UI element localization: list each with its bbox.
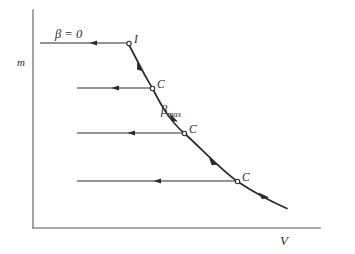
- beta-zero-path-arrowhead: [90, 40, 98, 45]
- ignition-point-label: I: [133, 33, 139, 45]
- contact-path-2-arrowhead: [128, 130, 136, 135]
- contact-point-1-label: C: [157, 78, 165, 90]
- boundary-curve-group: [128, 43, 287, 209]
- beta-max-label: βmax: [160, 103, 182, 119]
- contact-path-1-arrowhead: [112, 85, 120, 90]
- point-markers-group: [127, 41, 240, 183]
- contact-path-3: [77, 178, 237, 183]
- curve-arrowhead-1: [137, 62, 143, 72]
- contact-path-1: [77, 85, 152, 90]
- contact-point-2-marker: [182, 131, 186, 135]
- contact-path-2: [77, 130, 184, 135]
- diagram-figure: m V: [0, 0, 355, 254]
- y-axis-label: m: [17, 56, 25, 68]
- contact-point-3-marker: [235, 179, 239, 183]
- beta-max-subscript: max: [167, 109, 181, 119]
- contact-point-1-marker: [150, 86, 154, 90]
- beta-zero-path: [40, 40, 128, 45]
- diagram-canvas: m V: [0, 0, 355, 254]
- contact-path-3-arrowhead: [154, 178, 162, 183]
- svg-text:βmax: βmax: [160, 103, 182, 119]
- contact-point-2-label: C: [189, 123, 197, 135]
- curve-arrowhead-3: [209, 158, 218, 165]
- contact-point-3-label: C: [242, 171, 250, 183]
- beta-zero-label: β = 0: [54, 27, 83, 41]
- ignition-point-marker: [127, 41, 131, 45]
- x-axis-label: V: [280, 233, 290, 248]
- boundary-curve: [128, 43, 287, 209]
